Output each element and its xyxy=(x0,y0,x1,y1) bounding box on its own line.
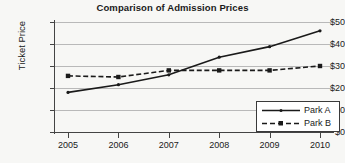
legend-label-park-a: Park A xyxy=(304,105,331,115)
series-line-park-b xyxy=(68,66,320,77)
series-layer xyxy=(0,0,345,163)
series-line-park-a xyxy=(68,31,320,93)
data-point-park-a xyxy=(167,73,170,76)
data-point-park-a xyxy=(66,91,69,94)
data-point-park-a xyxy=(218,56,221,59)
data-point-park-a xyxy=(268,45,271,48)
data-point-park-b xyxy=(116,75,120,79)
chart-legend: Park A Park B xyxy=(256,101,340,132)
legend-item-park-a: Park A xyxy=(257,104,341,117)
data-point-park-b xyxy=(267,68,271,72)
legend-label-park-b: Park B xyxy=(304,118,331,128)
data-point-park-b xyxy=(167,68,171,72)
data-point-park-a xyxy=(318,29,321,32)
data-point-park-b xyxy=(66,74,70,78)
data-point-park-a xyxy=(117,83,120,86)
legend-swatch-dashed-line xyxy=(261,117,301,130)
data-point-park-b xyxy=(217,68,221,72)
data-point-park-b xyxy=(318,64,322,68)
admission-prices-chart: Comparison of Admission Prices Ticket Pr… xyxy=(0,0,345,163)
legend-swatch-solid-line xyxy=(261,104,301,117)
legend-item-park-b: Park B xyxy=(257,117,341,130)
